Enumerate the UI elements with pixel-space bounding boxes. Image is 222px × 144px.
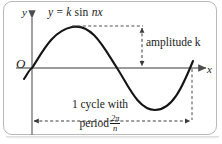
equation-variable: x [98, 6, 103, 18]
period-fraction: 2πn [110, 114, 121, 133]
period-label: period2πn [48, 114, 152, 133]
equation-amplitude-symbol: k [66, 6, 71, 18]
period-numerator: 2π [110, 114, 121, 123]
equation-function: sin [75, 6, 89, 18]
origin-label: O [16, 57, 25, 70]
sine-curve-figure: y x O y = k sin nx amplitude k 1 cycle w… [0, 0, 222, 144]
x-axis-label: x [207, 64, 212, 75]
amplitude-text: amplitude k [146, 36, 201, 48]
amplitude-label: amplitude k [146, 37, 201, 49]
cycle-label: 1 cycle with [54, 99, 146, 111]
period-word: period [80, 117, 109, 129]
y-axis-label: y [22, 7, 27, 18]
period-denominator: n [110, 123, 121, 133]
equation-equals: = [56, 6, 63, 18]
equation-lhs: y [48, 6, 53, 18]
equation-label: y = k sin nx [48, 7, 103, 19]
